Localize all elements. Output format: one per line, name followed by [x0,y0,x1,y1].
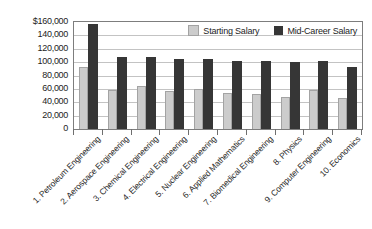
starting-salary-bar [338,98,347,129]
starting-salary-bar [108,90,117,129]
y-tick-label: 100,000 [0,56,68,66]
x-axis-tick [102,129,103,135]
starting-salary-bar [309,90,318,129]
y-tick-label: 140,000 [0,29,68,39]
starting-salary-bar [281,97,290,129]
salary-bar-chart: $160,000140,000120,000100,00080,00060,00… [0,0,372,229]
mid-career-salary-bar [290,62,300,129]
starting-salary-legend-label: Starting Salary [203,26,259,36]
mid-career-salary-bar [232,61,242,129]
y-tick-label: 120,000 [0,43,68,53]
y-tick-label: 0 [0,123,68,133]
x-axis-tick [73,129,74,135]
mid-career-salary-legend-label: Mid-Career Salary [287,26,357,36]
starting-salary-bar [223,93,232,129]
x-axis-tick [159,129,160,135]
mid-career-salary-bar [261,61,271,129]
x-axis-tick [188,129,189,135]
legend-entry-starting: Starting Salary [188,25,259,36]
starting-salary-bar [165,91,174,129]
y-tick-label: $160,000 [0,16,68,26]
starting-salary-bar [137,86,146,129]
legend-entry-midcareer: Mid-Career Salary [274,26,357,36]
starting-salary-bar [252,94,261,129]
mid-career-salary-bar [318,61,328,129]
y-tick-label: 80,000 [0,70,68,80]
x-axis-tick [303,129,304,135]
x-axis-tick [131,129,132,135]
starting-salary-bar [79,67,88,129]
mid-career-salary-bar [117,57,127,129]
x-axis-tick [275,129,276,135]
mid-career-salary-bar [88,24,98,129]
chart-legend: Starting Salary Mid-Career Salary [186,24,359,37]
y-tick-label: 60,000 [0,83,68,93]
mid-career-salary-swatch-icon [274,26,283,35]
x-axis-tick [246,129,247,135]
gridline [74,49,362,50]
y-tick-label: 40,000 [0,96,68,106]
x-axis-tick [332,129,333,135]
mid-career-salary-bar [203,59,213,129]
mid-career-salary-bar [146,57,156,129]
mid-career-salary-bar [347,67,357,129]
starting-salary-swatch-icon [188,25,199,36]
x-axis-tick [361,129,362,135]
x-axis-tick [217,129,218,135]
starting-salary-bar [194,89,203,129]
plot-area: Starting Salary Mid-Career Salary [73,21,363,130]
mid-career-salary-bar [174,59,184,129]
y-tick-label: 20,000 [0,110,68,120]
